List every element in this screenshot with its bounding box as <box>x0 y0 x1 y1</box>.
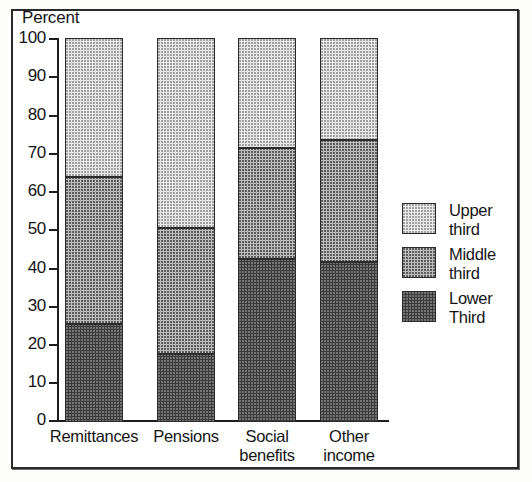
legend-item-upper-third[interactable]: Upper third <box>402 203 492 239</box>
y-tick-label-50: 50 <box>0 219 46 239</box>
legend-label-middle-third: Middle third <box>449 245 496 283</box>
bar-social-benefits-segment-middle[interactable] <box>239 148 295 259</box>
halftone-texture <box>158 39 214 228</box>
y-tick-label-40: 40 <box>0 258 46 278</box>
y-tick-50 <box>49 229 59 231</box>
bar-social-benefits-segment-upper[interactable] <box>239 39 295 148</box>
bar-other-income-segment-middle[interactable] <box>321 140 377 262</box>
bar-other-income-segment-lower[interactable] <box>321 262 377 422</box>
y-tick-30 <box>49 306 59 308</box>
y-tick-60 <box>49 191 59 193</box>
y-tick-label-20: 20 <box>0 334 46 354</box>
y-tick-80 <box>49 115 59 117</box>
legend-swatch-middle-third <box>402 247 436 278</box>
y-tick-100 <box>49 38 59 40</box>
halftone-texture <box>403 248 435 277</box>
bar-remittances-segment-lower[interactable] <box>66 324 122 422</box>
bar-social-benefits-segment-lower[interactable] <box>239 259 295 422</box>
y-tick-label-30: 30 <box>0 296 46 316</box>
halftone-texture <box>239 259 295 422</box>
bar-social-benefits[interactable] <box>238 38 296 422</box>
halftone-texture <box>158 228 214 354</box>
bar-other-income-divider-upper-middle <box>321 139 377 141</box>
y-tick-label-80: 80 <box>0 105 46 125</box>
bar-other-income[interactable] <box>320 38 378 422</box>
bar-pensions-segment-middle[interactable] <box>158 228 214 354</box>
legend-item-middle-third[interactable]: Middle third <box>402 247 496 283</box>
legend-swatch-lower-third <box>402 291 436 322</box>
x-axis-label-other-income: Other income <box>294 427 404 465</box>
bar-pensions-segment-lower[interactable] <box>158 354 214 422</box>
halftone-texture <box>403 204 435 233</box>
halftone-texture <box>403 292 435 321</box>
bar-pensions-divider-middle-lower <box>158 353 214 355</box>
bar-pensions[interactable] <box>157 38 215 422</box>
y-tick-0 <box>49 420 59 422</box>
legend-label-upper-third: Upper third <box>449 201 492 239</box>
y-tick-label-10: 10 <box>0 372 46 392</box>
halftone-texture <box>239 148 295 259</box>
halftone-texture <box>66 177 122 324</box>
y-tick-label-70: 70 <box>0 143 46 163</box>
bar-pensions-divider-upper-middle <box>158 227 214 229</box>
bar-remittances-divider-upper-middle <box>66 176 122 178</box>
halftone-texture <box>66 39 122 177</box>
y-tick-10 <box>49 382 59 384</box>
halftone-texture <box>321 39 377 140</box>
y-tick-label-60: 60 <box>0 181 46 201</box>
bar-remittances-divider-middle-lower <box>66 323 122 325</box>
bar-remittances-segment-upper[interactable] <box>66 39 122 177</box>
y-tick-70 <box>49 153 59 155</box>
plot-area: Percent 100 90 80 70 60 50 40 30 20 10 0 <box>0 0 532 482</box>
y-tick-40 <box>49 268 59 270</box>
halftone-texture <box>66 324 122 422</box>
legend-item-lower-third[interactable]: Lower Third <box>402 291 492 327</box>
bar-social-benefits-divider-middle-lower <box>239 258 295 260</box>
halftone-texture <box>321 140 377 262</box>
halftone-texture <box>158 354 214 422</box>
bar-remittances-segment-middle[interactable] <box>66 177 122 324</box>
legend-label-lower-third: Lower Third <box>449 289 492 327</box>
y-tick-20 <box>49 344 59 346</box>
y-tick-label-100: 100 <box>0 28 46 48</box>
halftone-texture <box>321 262 377 422</box>
legend-swatch-upper-third <box>402 203 436 234</box>
y-tick-label-90: 90 <box>0 66 46 86</box>
bar-other-income-divider-middle-lower <box>321 261 377 263</box>
halftone-texture <box>239 39 295 148</box>
y-axis-title: Percent <box>22 8 79 28</box>
chart-page: Percent 100 90 80 70 60 50 40 30 20 10 0 <box>0 0 532 482</box>
bar-other-income-segment-upper[interactable] <box>321 39 377 140</box>
bar-pensions-segment-upper[interactable] <box>158 39 214 228</box>
bar-social-benefits-divider-upper-middle <box>239 147 295 149</box>
y-tick-90 <box>49 76 59 78</box>
bar-remittances[interactable] <box>65 38 123 422</box>
